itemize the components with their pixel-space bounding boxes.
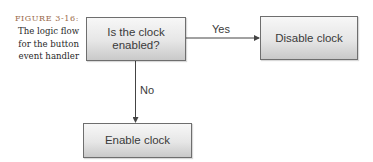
enable-clock-box: Enable clock [83, 123, 192, 158]
disable-clock-box: Disable clock [260, 16, 358, 60]
yes-label: Yes [212, 23, 230, 35]
enable-clock-text: Enable clock [105, 134, 170, 147]
decision-text-line2: enabled? [107, 39, 165, 52]
no-label: No [140, 84, 154, 96]
decision-box: Is the clock enabled? [86, 17, 186, 61]
decision-text-line1: Is the clock [107, 26, 165, 39]
disable-clock-text: Disable clock [275, 32, 343, 45]
